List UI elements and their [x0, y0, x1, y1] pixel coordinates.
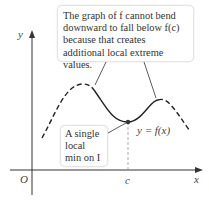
local-min-point — [126, 120, 130, 124]
callout-single-local-min: A single local min on I — [60, 125, 108, 167]
curve-label: y = f(x) — [137, 124, 170, 136]
c-label: c — [125, 174, 130, 186]
curve-solid — [94, 90, 158, 122]
y-axis-label: y — [18, 28, 23, 40]
x-axis-label: x — [194, 173, 199, 185]
leader-line-2 — [144, 62, 156, 98]
callout-bend-explanation: The graph of f cannot bend downward to f… — [57, 5, 194, 62]
origin-label: O — [20, 173, 28, 185]
leader-line-1 — [95, 62, 106, 85]
y-axis-arrow-icon — [29, 30, 35, 38]
leader-line-3 — [108, 123, 126, 133]
